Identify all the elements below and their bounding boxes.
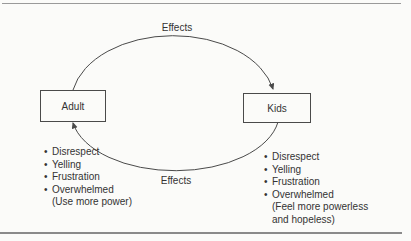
list-item: • Overwhelmed [264, 189, 368, 202]
bullet-icon: • [264, 189, 272, 202]
list-item: • Frustration [264, 176, 368, 189]
list-item-label: Frustration [52, 171, 100, 184]
list-item-label: Overwhelmed [52, 184, 114, 197]
list-item-label: Disrespect [52, 146, 99, 159]
list-item-label: Overwhelmed [272, 189, 334, 202]
adult-effects-list: • Disrespect • Yelling • Frustration • O… [44, 146, 132, 209]
kids-box: Kids [243, 93, 311, 123]
bottom-arrow-label: Effects [141, 175, 211, 186]
adult-box-label: Adult [62, 101, 85, 112]
list-item: • Yelling [44, 159, 132, 172]
bullet-icon: • [44, 146, 52, 159]
list-item: • Disrespect [264, 151, 368, 164]
kids-effects-note-line1: (Feel more powerless [264, 201, 368, 214]
adult-effects-note: (Use more power) [44, 196, 132, 209]
kids-effects-note-line2: and hopeless) [264, 214, 368, 227]
top-arrow-label: Effects [142, 22, 212, 33]
list-item: • Disrespect [44, 146, 132, 159]
list-item-label: Frustration [272, 176, 320, 189]
kids-box-label: Kids [267, 103, 286, 114]
list-item: • Yelling [264, 164, 368, 177]
kids-effects-list: • Disrespect • Yelling • Frustration • O… [264, 151, 368, 226]
bullet-icon: • [264, 176, 272, 189]
bullet-icon: • [264, 151, 272, 164]
bullet-icon: • [264, 164, 272, 177]
list-item: • Overwhelmed [44, 184, 132, 197]
bullet-icon: • [44, 171, 52, 184]
list-item: • Frustration [44, 171, 132, 184]
adult-box: Adult [40, 90, 106, 122]
top-effects-arrow [73, 36, 273, 90]
bullet-icon: • [44, 159, 52, 172]
diagram-page: Effects Effects Adult Kids • Disrespect … [0, 0, 411, 241]
list-item-label: Yelling [52, 159, 81, 172]
bullet-icon: • [44, 184, 52, 197]
list-item-label: Yelling [272, 164, 301, 177]
list-item-label: Disrespect [272, 151, 319, 164]
